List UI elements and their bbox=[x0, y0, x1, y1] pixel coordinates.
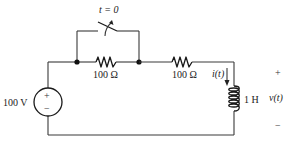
current-arrowhead-icon bbox=[225, 80, 230, 86]
current-label: i(t) bbox=[212, 68, 225, 80]
resistor-1: 100 Ω bbox=[77, 57, 139, 80]
source-minus: − bbox=[44, 103, 50, 114]
voltage-output: + v(t) − bbox=[269, 67, 284, 131]
voltage-label: v(t) bbox=[269, 92, 284, 104]
switch-arrow-icon bbox=[105, 22, 112, 36]
voltage-minus: − bbox=[275, 120, 281, 131]
resistor-1-label: 100 Ω bbox=[93, 69, 118, 80]
node-left bbox=[74, 59, 79, 64]
switch[interactable]: t = 0 bbox=[77, 4, 139, 62]
resistor-1-zigzag-icon bbox=[96, 57, 116, 67]
inductor: 1 H bbox=[229, 62, 259, 135]
switch-label: t = 0 bbox=[99, 4, 119, 15]
resistor-2-label: 100 Ω bbox=[172, 69, 197, 80]
inductor-label: 1 H bbox=[244, 94, 259, 105]
wire-left bbox=[48, 62, 77, 135]
voltage-source-label: 100 V bbox=[3, 97, 28, 108]
voltage-source: + − 100 V bbox=[3, 88, 62, 116]
current-indicator: i(t) bbox=[212, 68, 230, 86]
circuit-diagram: t = 0 100 Ω 100 Ω 1 H i(t) + − 100 V + bbox=[0, 0, 289, 144]
voltage-plus: + bbox=[275, 67, 281, 78]
inductor-coil-icon bbox=[229, 86, 240, 111]
source-plus: + bbox=[44, 90, 50, 101]
resistor-2-zigzag-icon bbox=[172, 57, 192, 67]
